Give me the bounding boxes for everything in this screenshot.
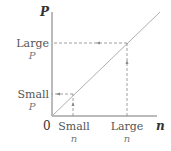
y-tick-small-line1: Small bbox=[17, 88, 49, 101]
x-tick-small-line2: n bbox=[71, 133, 77, 144]
large-up-arrow-icon bbox=[126, 60, 129, 64]
p-vs-n-diagram: P n 0 Large P Small P Small n Large n bbox=[0, 0, 171, 151]
y-tick-large-line1: Large bbox=[16, 37, 49, 50]
x-tick-large-line1: Large bbox=[111, 120, 144, 133]
small-left-arrow-icon bbox=[56, 93, 60, 96]
x-tick-large-line2: n bbox=[124, 133, 130, 144]
diagram-canvas: P n 0 Large P Small P Small n Large n bbox=[0, 0, 171, 151]
small-up-arrow-icon bbox=[72, 102, 75, 106]
x-axis-label: n bbox=[156, 119, 165, 133]
large-left-arrow-icon bbox=[96, 42, 100, 45]
y-axis-label: P bbox=[39, 5, 50, 19]
y-tick-large-line2: P bbox=[28, 50, 36, 61]
proportional-line bbox=[52, 12, 160, 116]
origin-label: 0 bbox=[43, 119, 51, 133]
y-tick-small-line2: P bbox=[28, 101, 36, 112]
x-tick-small-line1: Small bbox=[58, 120, 90, 133]
